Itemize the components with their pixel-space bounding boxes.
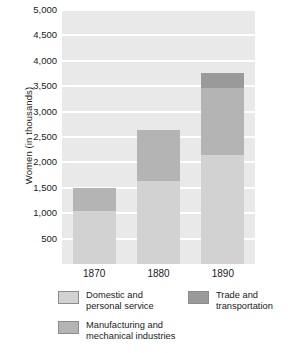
bar-segment [73, 188, 116, 211]
x-tick-label: 1880 [129, 268, 189, 279]
bar-segment [201, 155, 244, 264]
bar [73, 188, 116, 264]
bar-segment [137, 130, 180, 181]
bar-group [137, 10, 180, 264]
legend-item[interactable]: Manufacturing and mechanical industries [58, 320, 175, 342]
y-tick-label: 2,500 [11, 132, 57, 142]
plot-area [62, 10, 255, 264]
legend-item[interactable]: Trade and transportation [188, 290, 273, 312]
chart-legend: Domestic and personal serviceTrade and t… [58, 290, 286, 348]
bar [137, 130, 180, 264]
bar-segment [201, 88, 244, 155]
y-tick-label: 3,500 [11, 81, 57, 91]
y-tick-label: 1,000 [11, 208, 57, 218]
legend-label: Domestic and personal service [86, 290, 154, 312]
bar-segment [73, 211, 116, 264]
legend-item[interactable]: Domestic and personal service [58, 290, 154, 312]
x-tick-label: 1890 [193, 268, 253, 279]
legend-swatch [188, 291, 209, 304]
legend-label: Trade and transportation [216, 290, 273, 312]
bar-group [201, 10, 244, 264]
chart-figure: Women (in thousands) 5001,0001,5002,0002… [0, 0, 288, 353]
bar-segment [201, 73, 244, 88]
y-tick-label: 1,500 [11, 183, 57, 193]
y-tick-label: 500 [11, 234, 57, 244]
y-tick-label: 3,000 [11, 107, 57, 117]
y-tick-label: 4,500 [11, 30, 57, 40]
bar [201, 73, 244, 264]
legend-swatch [58, 291, 79, 304]
legend-swatch [58, 321, 79, 334]
y-tick-label: 2,000 [11, 157, 57, 167]
y-tick-label: 5,000 [11, 5, 57, 15]
bar-segment [137, 181, 180, 264]
x-tick-label: 1870 [64, 268, 124, 279]
legend-label: Manufacturing and mechanical industries [86, 320, 175, 342]
bar-group [73, 10, 116, 264]
y-tick-label: 4,000 [11, 56, 57, 66]
